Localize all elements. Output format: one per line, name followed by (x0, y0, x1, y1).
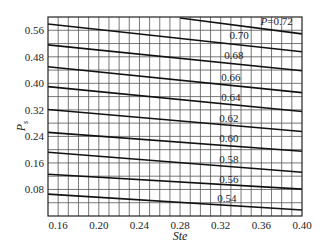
y-tick-label: 0.32 (25, 104, 44, 116)
curve-line (48, 194, 302, 210)
x-tick-label: 0.16 (49, 219, 69, 231)
y-tick-label: 0.56 (25, 24, 45, 36)
curve-line (48, 67, 302, 93)
curve-line (48, 87, 302, 112)
x-tick-label: 0.32 (211, 219, 230, 231)
x-tick-label: 0.40 (292, 219, 312, 231)
curve-label: 0.70 (229, 29, 249, 41)
curve-line (48, 45, 302, 71)
curve-label: 0.54 (217, 192, 237, 204)
curve-label: 0.64 (221, 91, 241, 103)
y-tick-label: 0.16 (25, 157, 45, 169)
curve-label: 0.62 (219, 112, 238, 124)
curve-label: 0.60 (219, 132, 239, 144)
x-tick-label: 0.24 (130, 219, 150, 231)
y-axis-title: Ps (14, 121, 30, 132)
x-axis-title: Ste (173, 229, 188, 243)
y-tick-label: 0.08 (25, 183, 45, 195)
curve-line (48, 132, 302, 151)
y-axis-ticks: 0.080.160.240.320.400.480.56 (25, 24, 45, 195)
svg-text:Ps: Ps (14, 121, 30, 132)
curves (48, 18, 302, 210)
curve-label: 0.68 (224, 49, 244, 61)
x-tick-label: 0.36 (252, 219, 272, 231)
chart: P=0.720.700.680.660.640.620.600.580.560.… (0, 0, 324, 247)
y-axis-title-sub: s (21, 121, 30, 124)
y-tick-label: 0.48 (25, 51, 45, 63)
curve-label: 0.66 (221, 71, 241, 83)
y-tick-label: 0.40 (25, 77, 45, 89)
curve-label: 0.58 (219, 153, 239, 165)
curve-label: 0.56 (219, 173, 239, 185)
curve-line (48, 110, 302, 132)
x-tick-label: 0.20 (89, 219, 109, 231)
curve-line (48, 152, 302, 172)
curve-label: P=0.72 (259, 15, 292, 27)
